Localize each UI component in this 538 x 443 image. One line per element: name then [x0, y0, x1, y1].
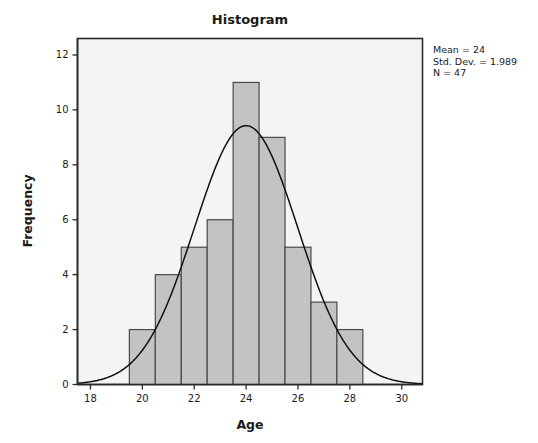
histogram-svg: Histogram 18202224262830 024681012 Age F… [0, 0, 538, 443]
x-tick-label: 18 [84, 393, 97, 404]
statistics-line: N = 47 [433, 67, 466, 78]
y-axis-title: Frequency [20, 174, 35, 247]
y-tick-label: 2 [62, 324, 68, 335]
x-tick-label: 24 [240, 393, 253, 404]
x-tick-label: 30 [395, 393, 408, 404]
y-axis-ticks: 024681012 [56, 49, 78, 390]
histogram-bar [155, 275, 181, 385]
x-axis-title: Age [236, 417, 263, 432]
histogram-bar [233, 82, 259, 384]
statistics-line: Mean = 24 [433, 44, 485, 55]
x-tick-label: 22 [188, 393, 201, 404]
y-tick-label: 12 [56, 49, 69, 60]
histogram-bar [259, 137, 285, 384]
histogram-bar [311, 302, 337, 384]
histogram-bar [181, 247, 207, 384]
x-tick-label: 26 [292, 393, 305, 404]
statistics-line: Std. Dev. = 1.989 [433, 56, 517, 67]
histogram-bar [285, 247, 311, 384]
x-tick-label: 20 [136, 393, 149, 404]
histogram-bar [207, 220, 233, 385]
histogram-chart: Histogram 18202224262830 024681012 Age F… [0, 0, 538, 443]
y-tick-label: 8 [62, 159, 68, 170]
y-tick-label: 4 [62, 269, 68, 280]
x-axis-ticks: 18202224262830 [84, 385, 408, 404]
x-tick-label: 28 [344, 393, 357, 404]
chart-title: Histogram [212, 12, 288, 27]
y-tick-label: 0 [62, 379, 68, 390]
statistics-annotation: Mean = 24Std. Dev. = 1.989N = 47 [433, 44, 517, 78]
y-tick-label: 6 [62, 214, 68, 225]
y-tick-label: 10 [56, 104, 69, 115]
